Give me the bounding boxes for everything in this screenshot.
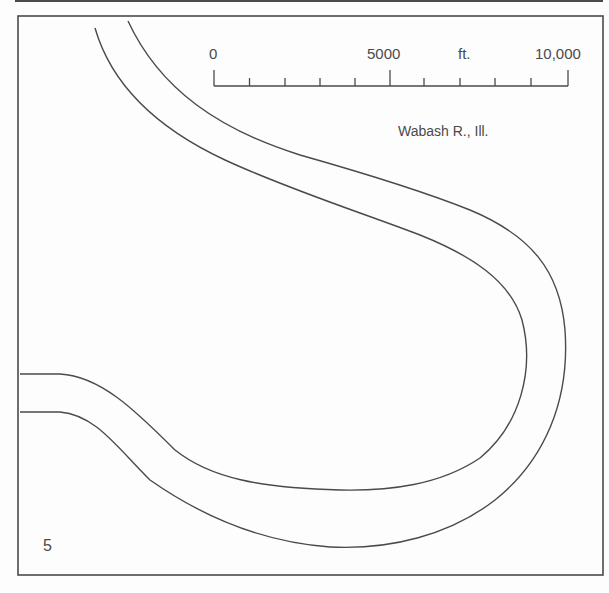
- scale-label-0: 0: [209, 46, 217, 61]
- scale-bar: [214, 70, 568, 86]
- location-label: Wabash R., Ill.: [398, 124, 489, 138]
- map-frame: [18, 16, 603, 575]
- river-map: [0, 0, 609, 593]
- scale-label-5000: 5000: [367, 46, 400, 61]
- outer-bank: [20, 21, 566, 547]
- inner-bank: [20, 28, 527, 490]
- scale-unit-label: ft.: [458, 46, 471, 61]
- panel-number: 5: [43, 538, 52, 554]
- scale-label-10000: 10,000: [535, 46, 581, 61]
